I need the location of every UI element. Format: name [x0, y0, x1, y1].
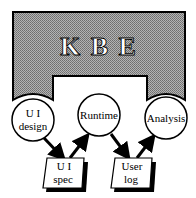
document-user-log: User log — [111, 158, 156, 192]
process-label: Runtime — [80, 109, 118, 121]
process-label: Analysis — [147, 112, 186, 124]
kbe-block: K B E — [13, 12, 185, 100]
flow-arrows — [44, 134, 153, 158]
kbe-diagram: K B E U I design Runtime Analysis U I sp… — [0, 0, 196, 198]
process-label-line2: design — [19, 120, 48, 132]
document-label-line2: spec — [53, 173, 73, 185]
arrow-ui-spec-to-runtime — [70, 136, 87, 158]
document-label-line1: User — [122, 160, 143, 172]
process-runtime: Runtime — [78, 94, 120, 136]
kbe-title: K B E — [60, 32, 138, 61]
process-ui-design: U I design — [12, 99, 54, 141]
process-analysis: Analysis — [145, 97, 187, 139]
arrow-ui-design-to-ui-spec — [44, 138, 63, 158]
process-label-line1: U I — [26, 107, 41, 119]
arrow-user-log-to-analysis — [137, 137, 153, 158]
document-ui-spec: U I spec — [43, 158, 88, 192]
arrow-runtime-to-user-log — [111, 134, 128, 157]
document-label-line1: U I — [57, 160, 72, 172]
document-label-line2: log — [124, 173, 139, 185]
